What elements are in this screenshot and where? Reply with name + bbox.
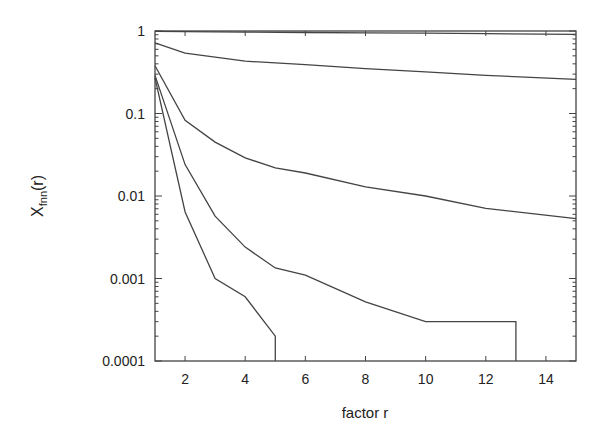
x-tick-label: 10: [418, 371, 434, 387]
y-axis-label: Xfnn(r): [29, 175, 49, 217]
x-axis-ticks: 2468101214: [181, 31, 554, 387]
series-line-curve-2: [155, 43, 576, 80]
y-tick-label: 0.1: [126, 106, 146, 122]
series-line-curve-4: [155, 75, 516, 361]
series-line-curve-5: [155, 78, 275, 361]
series-lines: [155, 31, 576, 361]
fnn-chart: 2468101214 10.10.010.0010.0001 factor r …: [0, 0, 598, 439]
x-tick-label: 12: [478, 371, 494, 387]
x-tick-label: 14: [538, 371, 554, 387]
x-axis-label: factor r: [342, 404, 389, 421]
y-tick-label: 0.001: [110, 271, 145, 287]
x-tick-label: 4: [241, 371, 249, 387]
x-tick-label: 2: [181, 371, 189, 387]
y-axis-ticks: 10.10.010.0010.0001: [102, 23, 576, 369]
y-tick-label: 0.01: [118, 188, 145, 204]
plot-frame: [155, 31, 576, 361]
y-tick-label: 1: [137, 23, 145, 39]
series-line-curve-3: [155, 66, 576, 219]
x-tick-label: 6: [301, 371, 309, 387]
x-tick-label: 8: [362, 371, 370, 387]
y-tick-label: 0.0001: [102, 353, 145, 369]
